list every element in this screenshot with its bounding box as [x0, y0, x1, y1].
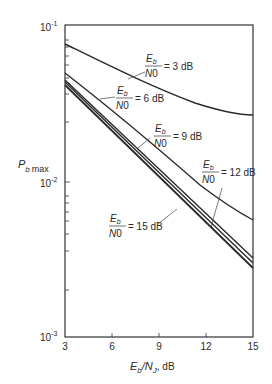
svg-text:N0: N0: [116, 100, 129, 111]
leader-6db: [100, 97, 115, 99]
label-15db: Eb N0 = 15 dB: [109, 213, 163, 239]
label-9db: Eb N0 = 9 dB: [154, 123, 203, 149]
svg-text:= 3 dB: = 3 dB: [164, 61, 194, 72]
svg-text:N0: N0: [109, 228, 122, 239]
y-tick-label: 10-2: [40, 176, 57, 189]
svg-text:N0: N0: [202, 174, 215, 185]
svg-text:= 12 dB: = 12 dB: [221, 167, 256, 178]
svg-text:= 6 dB: = 6 dB: [135, 93, 165, 104]
chart: 10-1 10-2 10-3 3 6 9 12 15 Pbmax Eb/NJ, …: [0, 0, 272, 384]
svg-text:Eb: Eb: [146, 53, 157, 65]
y-tick-label: 10-1: [40, 20, 57, 33]
svg-text:Eb: Eb: [117, 85, 128, 97]
x-tick-label: 3: [62, 341, 68, 352]
y-tick-label: 10-3: [40, 330, 57, 343]
y-axis-title: Pbmax: [18, 158, 49, 174]
plot-frame: [65, 25, 253, 337]
x-tick-label: 12: [200, 341, 212, 352]
svg-text:= 15 dB: = 15 dB: [128, 221, 163, 232]
label-12db: Eb N0 = 12 dB: [202, 159, 256, 185]
curve-3db: [65, 44, 253, 115]
leader-9db: [138, 138, 150, 148]
label-6db: Eb N0 = 6 dB: [116, 85, 165, 111]
x-tick-label: 9: [156, 341, 162, 352]
y-minor-ticks: [65, 40, 70, 290]
x-axis-title: Eb/NJ, dB: [130, 360, 175, 375]
svg-text:N0: N0: [154, 138, 167, 149]
svg-text:= 9 dB: = 9 dB: [173, 131, 203, 142]
svg-text:N0: N0: [145, 68, 158, 79]
x-tick-label: 15: [247, 341, 259, 352]
x-tick-label: 6: [109, 341, 115, 352]
label-3db: Eb N0 = 3 dB: [145, 53, 194, 79]
svg-text:Eb: Eb: [110, 213, 121, 225]
svg-text:Eb: Eb: [155, 123, 166, 135]
svg-text:Eb: Eb: [203, 159, 214, 171]
